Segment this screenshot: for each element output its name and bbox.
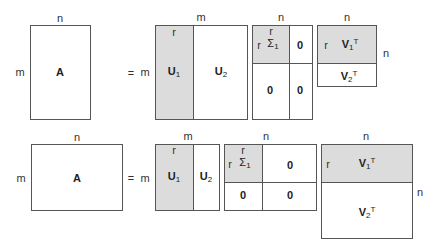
top-u1-label: U1 xyxy=(168,66,180,80)
bottom-sigma-rank-col: r xyxy=(241,145,245,156)
bottom-a-label: A xyxy=(73,173,81,184)
top-u2-label: U2 xyxy=(215,66,227,80)
bottom-u-rows-label: m xyxy=(140,173,149,184)
bottom-v-cols-label: n xyxy=(363,131,369,142)
bottom-sigma-zero-bl: 0 xyxy=(240,190,246,201)
top-v-divider xyxy=(317,63,377,64)
top-a-label: A xyxy=(56,67,64,78)
bottom-v1t-label: V1T xyxy=(359,155,376,172)
top-v-cols-label: n xyxy=(344,12,350,23)
bottom-sigma1-label: Σ1 xyxy=(239,157,250,171)
top-v-rows-label: n xyxy=(383,48,389,59)
bottom-equals-sign: = xyxy=(128,173,134,184)
bottom-a-cols-label: n xyxy=(74,132,80,143)
bottom-a-rows-label: m xyxy=(16,173,25,184)
top-sigma1-label: Σ1 xyxy=(267,38,278,52)
bottom-u-divider xyxy=(193,144,194,211)
top-a-cols-label: n xyxy=(57,13,63,24)
top-a-rows-label: m xyxy=(15,67,24,78)
bottom-u-rank-label: r xyxy=(172,145,176,156)
top-sigma-cols-label: n xyxy=(278,12,284,23)
top-u-divider xyxy=(193,25,194,120)
top-u-rows-label: m xyxy=(140,67,149,78)
bottom-v2t-label: V2T xyxy=(359,204,376,221)
top-v-rank-label: r xyxy=(324,40,328,51)
top-sigma-zero-br: 0 xyxy=(297,85,303,96)
top-sigma-hdivider xyxy=(252,63,313,64)
top-sigma-rank-row: r xyxy=(257,40,261,51)
bottom-sigma-zero-br: 0 xyxy=(287,190,293,201)
top-v2t-label: V2T xyxy=(341,68,358,85)
bottom-u-cols-label: m xyxy=(183,131,192,142)
bottom-sigma-zero-tr: 0 xyxy=(287,160,293,171)
top-sigma-zero-bl: 0 xyxy=(267,85,273,96)
bottom-sigma-vdivider xyxy=(262,144,263,211)
bottom-v-divider xyxy=(321,182,413,183)
bottom-u1-label: U1 xyxy=(168,171,180,185)
top-equals-sign: = xyxy=(128,68,134,79)
top-sigma-vdivider xyxy=(289,25,290,120)
bottom-sigma-hdivider xyxy=(224,182,317,183)
bottom-sigma-rank-row: r xyxy=(228,159,232,170)
top-sigma-rank-col: r xyxy=(269,26,273,37)
top-u-rank-label: r xyxy=(172,27,176,38)
bottom-v-rank-label: r xyxy=(326,159,330,170)
bottom-sigma-cols-label: n xyxy=(263,131,269,142)
top-sigma-zero-tr: 0 xyxy=(297,40,303,51)
bottom-v-rows-label: n xyxy=(417,187,423,198)
bottom-u2-label: U2 xyxy=(200,171,212,185)
top-u-cols-label: m xyxy=(196,12,205,23)
top-v1t-label: V1T xyxy=(342,36,359,53)
